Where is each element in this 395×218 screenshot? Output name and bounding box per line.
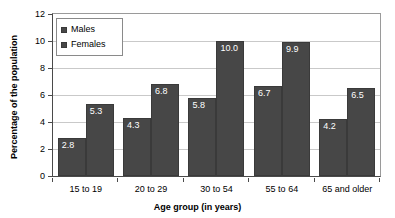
legend-item-males: Males bbox=[61, 22, 118, 37]
x-tick-mark bbox=[379, 178, 380, 182]
legend-label-females: Females bbox=[71, 40, 106, 49]
legend-swatch-icon bbox=[61, 42, 67, 48]
x-axis-title: Age group (in years) bbox=[0, 202, 395, 212]
legend-item-females: Females bbox=[61, 37, 118, 52]
x-category-label: 15 to 19 bbox=[53, 185, 118, 195]
legend: Males Females bbox=[56, 18, 123, 56]
bar-chart: Percentage of the population 024681012 2… bbox=[0, 0, 395, 218]
x-tick-mark bbox=[314, 178, 315, 182]
legend-label-males: Males bbox=[71, 25, 95, 34]
x-tick-mark bbox=[248, 178, 249, 182]
x-tick-mark bbox=[183, 178, 184, 182]
x-tick-mark bbox=[52, 178, 53, 182]
x-tick-mark bbox=[117, 178, 118, 182]
x-category-label: 65 and older bbox=[315, 185, 380, 195]
legend-swatch-icon bbox=[61, 27, 67, 33]
x-category-label: 20 to 29 bbox=[118, 185, 183, 195]
x-category-label: 30 to 54 bbox=[184, 185, 249, 195]
x-category-label: 55 to 64 bbox=[249, 185, 314, 195]
